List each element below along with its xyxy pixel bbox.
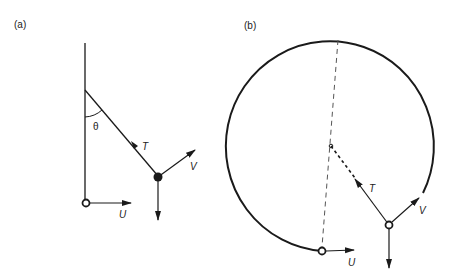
- panel-a: (a) θ T V U: [14, 19, 198, 220]
- panel-b-label: (b): [244, 20, 256, 31]
- string-line: [85, 90, 158, 176]
- start-velocity-arrow-b: [326, 250, 354, 251]
- dashed-string: [331, 146, 355, 178]
- velocity-label-b: V: [419, 205, 427, 216]
- panel-a-label: (a): [14, 19, 26, 30]
- dashed-diameter: [322, 40, 338, 247]
- pivot-open-circle-a: [83, 200, 90, 207]
- angle-arc: [85, 110, 102, 117]
- start-open-circle-b: [319, 248, 326, 255]
- figure-canvas: (a) θ T V U (b) T: [0, 0, 456, 273]
- start-velocity-label-b: U: [348, 257, 356, 268]
- bob-open-circle-b: [386, 222, 393, 229]
- theta-label: θ: [93, 121, 99, 132]
- velocity-label-a: V: [190, 161, 198, 172]
- pivot-velocity-label-a: U: [119, 209, 127, 220]
- panel-b: (b) T V U: [226, 20, 434, 268]
- velocity-arrow-b: [392, 198, 419, 222]
- tension-label-a: T: [142, 141, 149, 152]
- tension-label-b: T: [369, 183, 376, 194]
